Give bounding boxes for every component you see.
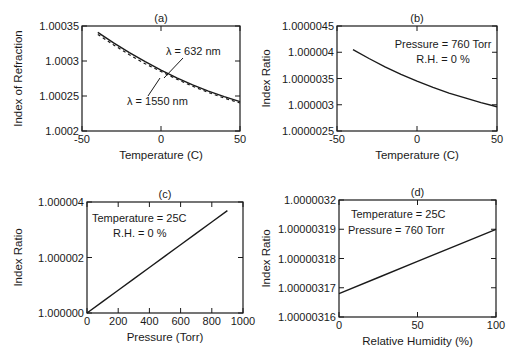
x-tick-label: 0: [336, 319, 342, 331]
y-tick-label: 1.000004: [38, 196, 84, 208]
y-tick-label: 1.00035: [39, 20, 79, 32]
annotation: Pressure = 760 Torr: [395, 38, 492, 50]
x-tick-label: 50: [411, 319, 423, 331]
y-tick-label: 1.0000025: [282, 125, 334, 137]
annotation: R.H. = 0 %: [416, 53, 470, 65]
x-tick-label: 100: [487, 319, 505, 331]
x-tick-label: 600: [171, 315, 189, 327]
plot-frame: [82, 26, 240, 131]
x-axis-label: Temperature (C): [375, 149, 459, 161]
y-axis-label: Index Ratio: [260, 229, 272, 287]
panel-d: (d)0501001.000003161.000003171.000003181…: [260, 186, 505, 347]
panel-c: (c)020040060080010001.0000001.0000021.00…: [12, 188, 255, 343]
x-axis-label: Temperature (C): [119, 149, 203, 161]
y-tick-label: 1.0002: [45, 125, 79, 137]
y-tick-label: 1.0000032: [284, 194, 336, 206]
data-line: [98, 32, 240, 101]
panel-label: (b): [410, 12, 423, 24]
y-axis-label: Index of Refraction: [12, 30, 24, 127]
x-axis-label: Relative Humidity (%): [362, 335, 473, 347]
x-tick-label: 50: [491, 133, 503, 145]
x-tick-label: 1000: [231, 315, 255, 327]
y-tick-label: 1.0000035: [282, 73, 334, 85]
figure: (a)-500501.00021.000251.00031.00035Tempe…: [0, 0, 515, 360]
y-axis-label: Index Ratio: [260, 49, 272, 107]
panel-b: (b)-500501.00000251.0000031.00000351.000…: [260, 12, 503, 161]
leader-line: [164, 58, 183, 78]
y-tick-label: 1.000002: [38, 252, 84, 264]
annotation: R.H. = 0 %: [113, 227, 167, 239]
x-tick-label: 50: [234, 133, 246, 145]
annotation: Temperature = 25C: [351, 208, 446, 220]
annotation: λ = 1550 nm: [127, 95, 188, 107]
y-tick-label: 1.000004: [288, 46, 334, 58]
y-tick-label: 1.00000317: [278, 282, 336, 294]
y-tick-label: 1.0003: [45, 55, 79, 67]
annotation: Temperature = 25C: [92, 212, 187, 224]
panel-label: (c): [159, 188, 172, 200]
leader-line: [148, 78, 160, 96]
x-tick-label: 0: [84, 315, 90, 327]
y-tick-label: 1.00000318: [278, 253, 336, 265]
y-tick-label: 1.00025: [39, 90, 79, 102]
annotation: λ = 632 nm: [166, 45, 221, 57]
y-tick-label: 1.000000: [38, 307, 84, 319]
annotation: Pressure = 760 Torr: [348, 224, 445, 236]
x-tick-label: 800: [203, 315, 221, 327]
panel-label: (a): [154, 12, 167, 24]
y-tick-label: 1.00000316: [278, 311, 336, 323]
x-axis-label: Pressure (Torr): [127, 331, 204, 343]
data-line: [87, 211, 227, 313]
x-tick-label: 400: [140, 315, 158, 327]
x-tick-label: 0: [158, 133, 164, 145]
y-tick-label: 1.00000319: [278, 223, 336, 235]
y-tick-label: 1.0000045: [282, 20, 334, 32]
y-tick-label: 1.000003: [288, 99, 334, 111]
panel-a: (a)-500501.00021.000251.00031.00035Tempe…: [12, 12, 246, 161]
panel-label: (d): [411, 186, 424, 198]
data-line: [339, 229, 496, 293]
x-tick-label: 0: [414, 133, 420, 145]
y-axis-label: Index Ratio: [12, 228, 24, 286]
x-tick-label: 200: [109, 315, 127, 327]
figure-canvas: (a)-500501.00021.000251.00031.00035Tempe…: [0, 0, 515, 360]
